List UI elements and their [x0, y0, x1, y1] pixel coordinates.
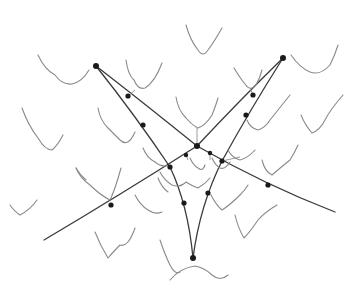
curve: [235, 205, 277, 238]
edge-topright-center: [197, 58, 283, 146]
curve: [291, 45, 338, 73]
node-n12: [208, 151, 212, 155]
edge-topleft-bottom: [96, 66, 193, 258]
edge-center-right: [197, 146, 335, 212]
node-n5: [181, 200, 186, 205]
node-n11: [184, 153, 188, 157]
curve: [38, 55, 89, 84]
node-n1: [125, 93, 130, 98]
edge-topright-bottom: [193, 58, 283, 258]
curve: [301, 95, 343, 133]
node-center: [194, 143, 200, 149]
curve: [190, 158, 205, 169]
curve: [186, 25, 222, 54]
node-n9: [250, 92, 255, 97]
curve: [262, 145, 298, 175]
node-n4: [167, 164, 172, 169]
edge-center-left: [44, 146, 197, 240]
node-n3: [108, 202, 113, 207]
node-n6: [205, 190, 210, 195]
curve: [10, 200, 37, 215]
curve: [160, 172, 210, 188]
curve: [234, 68, 262, 88]
curve: [143, 148, 170, 166]
diagram-canvas: [0, 0, 355, 299]
node-bottom: [190, 255, 196, 261]
node-top-left: [93, 63, 99, 69]
curve: [22, 108, 63, 150]
curve: [98, 108, 135, 143]
node-n7: [219, 158, 224, 163]
node-n2: [140, 122, 145, 127]
curve: [76, 168, 121, 200]
curve: [76, 168, 86, 180]
node-n10: [265, 182, 270, 187]
node-top-right: [280, 55, 286, 61]
curve: [95, 228, 135, 258]
curve: [247, 95, 290, 130]
curve: [176, 97, 218, 128]
landscape-curves: [10, 25, 343, 280]
node-n8: [243, 112, 248, 117]
curve: [160, 240, 180, 273]
curve: [135, 195, 162, 213]
curve: [211, 185, 248, 210]
curve: [126, 60, 162, 88]
